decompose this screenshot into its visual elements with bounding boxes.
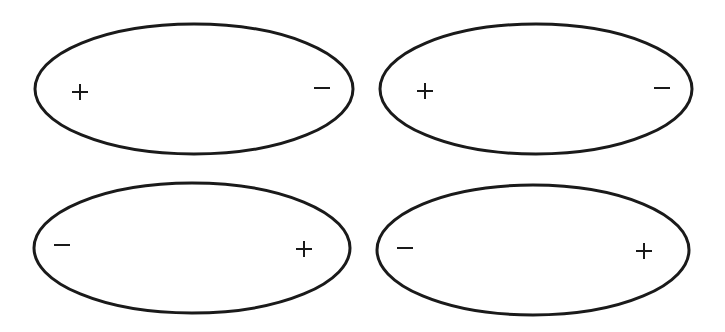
ellipse-top-left bbox=[35, 24, 353, 154]
ellipse-bottom-right bbox=[377, 185, 689, 315]
ellipse-outline bbox=[380, 24, 692, 154]
ellipse-outline bbox=[35, 24, 353, 154]
plus-sign-icon bbox=[72, 84, 88, 100]
ellipse-top-right bbox=[380, 24, 692, 154]
charge-ellipses-diagram bbox=[0, 0, 725, 332]
plus-sign-icon bbox=[636, 243, 652, 259]
plus-sign-icon bbox=[417, 83, 433, 99]
plus-sign-icon bbox=[296, 241, 312, 257]
ellipse-bottom-left bbox=[34, 183, 350, 313]
